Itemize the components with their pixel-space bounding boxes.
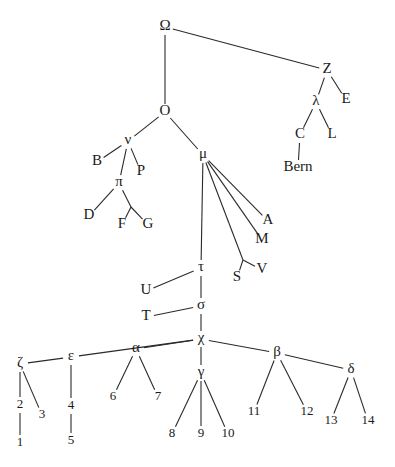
edge-alpha-n6	[116, 356, 132, 390]
node-delta: δ	[347, 360, 354, 376]
node-n6: 6	[110, 388, 117, 403]
node-M: M	[255, 230, 268, 246]
edge-O-mu	[170, 118, 197, 149]
edge-pi-D	[94, 189, 113, 210]
node-beta: β	[273, 343, 281, 359]
edge-pi-FG	[123, 190, 131, 207]
node-pi: π	[115, 173, 123, 189]
edge-mu-A	[209, 161, 263, 216]
edge-SV-V	[243, 260, 255, 266]
edge-O-nu	[134, 117, 158, 136]
edge-beta-delta	[285, 355, 343, 368]
node-chi: χ	[197, 329, 205, 345]
node-n10: 10	[222, 425, 235, 440]
edge-Z-E	[331, 77, 341, 93]
node-gamma: γ	[197, 363, 205, 379]
node-n3: 3	[39, 406, 46, 421]
edge-delta-n13	[334, 377, 348, 413]
edge-Omega-Z	[173, 29, 320, 68]
node-tau: τ	[198, 258, 204, 274]
edge-mu-tau	[201, 163, 203, 260]
edge-chi-beta	[209, 340, 269, 351]
edge-delta-n14	[354, 378, 366, 414]
edge-epsilon-zeta	[28, 358, 63, 363]
node-n5: 5	[68, 432, 75, 447]
node-S: S	[233, 268, 241, 284]
node-B: B	[92, 152, 102, 168]
edge-sigma-T	[154, 308, 193, 316]
node-sigma: σ	[197, 296, 205, 312]
edge-nu-B	[104, 145, 122, 157]
node-n7: 7	[155, 388, 162, 403]
node-n4: 4	[68, 397, 75, 412]
node-L: L	[327, 125, 336, 141]
edge-zeta-n3	[23, 371, 39, 407]
node-n12: 12	[301, 403, 314, 418]
node-P: P	[137, 162, 145, 178]
edge-nu-pi	[121, 149, 127, 175]
edge-beta-n12	[281, 360, 304, 405]
node-A: A	[263, 211, 274, 227]
edge-gamma-n8	[175, 380, 197, 427]
node-n2: 2	[17, 396, 24, 411]
edge-tau-U	[153, 271, 193, 288]
node-V: V	[257, 260, 268, 276]
node-n11: 11	[248, 403, 261, 418]
edge-FG-F	[126, 207, 131, 218]
node-n14: 14	[362, 412, 376, 427]
node-mu: μ	[199, 145, 207, 161]
node-E: E	[341, 90, 350, 106]
node-zeta: ζ	[17, 354, 23, 370]
node-alpha: α	[132, 339, 140, 355]
edge-gamma-n10	[204, 380, 225, 426]
node-Bern: Bern	[283, 158, 313, 174]
node-T: T	[141, 307, 150, 323]
node-nu: ν	[125, 131, 132, 147]
edge-FG-G	[131, 207, 143, 219]
node-O: O	[160, 102, 171, 118]
edge-layer	[20, 29, 365, 435]
node-n1: 1	[17, 434, 24, 449]
node-Z: Z	[322, 60, 331, 76]
edge-chi-alpha	[144, 340, 193, 348]
node-G: G	[143, 215, 154, 231]
stemma-diagram: ΩZEλCLBernOνBPπDFGμAMSVτUσTχζεαγβδ231456…	[0, 0, 395, 467]
node-Omega: Ω	[159, 17, 170, 33]
node-epsilon: ε	[68, 347, 74, 363]
node-n8: 8	[169, 425, 176, 440]
node-n13: 13	[325, 412, 338, 427]
node-F: F	[118, 215, 126, 231]
node-U: U	[141, 281, 152, 297]
node-n9: 9	[198, 425, 205, 440]
node-C: C	[295, 125, 305, 141]
edge-alpha-n7	[139, 356, 154, 389]
node-D: D	[84, 206, 95, 222]
edge-mu-M	[208, 162, 258, 234]
node-lambda: λ	[312, 92, 320, 108]
edge-beta-n11	[257, 360, 274, 404]
